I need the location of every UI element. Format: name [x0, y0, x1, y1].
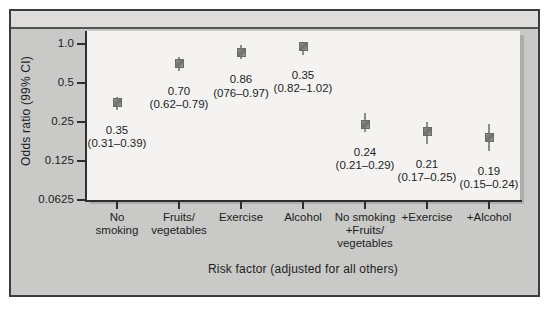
y-axis-tick-label: 0.25	[0, 115, 74, 129]
y-axis-tick-label-text: 0.0625	[0, 193, 74, 205]
y-axis-tick-label: 0.5	[0, 76, 74, 90]
y-axis-tick-label: 1.0	[0, 37, 74, 51]
point-marker	[113, 98, 122, 107]
data-point-confidence-interval: (0.82–1.02)	[257, 82, 349, 96]
y-axis-tick	[77, 82, 86, 84]
x-axis-tick	[302, 201, 304, 209]
y-axis-tick	[77, 160, 86, 162]
x-axis-tick	[178, 201, 180, 209]
point-marker	[175, 59, 184, 68]
data-point-label: 0.35(0.31–0.39)	[71, 124, 163, 151]
data-point-confidence-interval: (0.31–0.39)	[71, 137, 163, 151]
x-axis-title: Risk factor (adjusted for all others)	[86, 262, 520, 276]
panel-top-band	[11, 11, 538, 29]
point-marker	[299, 42, 308, 51]
data-point[interactable]	[231, 43, 251, 61]
x-axis-tick	[240, 201, 242, 209]
data-point-confidence-interval: (0.62–0.79)	[133, 98, 225, 112]
x-axis-category-label-line: vegetables	[127, 224, 231, 237]
y-axis-line	[85, 31, 87, 202]
x-axis-category-label-line: +Fruits/	[313, 224, 417, 237]
point-marker	[237, 48, 246, 57]
data-point-label: 0.19(0.15–0.24)	[443, 165, 535, 192]
data-point[interactable]	[355, 111, 375, 133]
y-axis-tick-label-text: 1.0	[0, 37, 74, 49]
x-axis-category-label-line: vegetables	[313, 237, 417, 250]
data-point[interactable]	[417, 120, 437, 146]
data-point-estimate: 0.19	[443, 165, 535, 179]
data-point[interactable]	[293, 40, 313, 56]
y-axis-tick	[77, 43, 86, 45]
data-point[interactable]	[479, 122, 499, 153]
point-marker	[485, 133, 494, 142]
point-marker	[423, 127, 432, 136]
y-axis-tick	[77, 121, 86, 123]
y-axis-tick-label-text: 0.125	[0, 154, 74, 166]
x-axis-category-label-line: +Alcohol	[437, 211, 541, 224]
x-axis-tick	[116, 201, 118, 209]
x-axis-tick	[364, 201, 366, 209]
data-point-label: 0.35(0.82–1.02)	[257, 69, 349, 96]
y-axis-tick	[77, 199, 86, 201]
point-marker	[361, 120, 370, 129]
data-point[interactable]	[169, 55, 189, 73]
y-axis-tick-label-text: 0.5	[0, 76, 74, 88]
y-axis-tick-label: 0.125	[0, 154, 74, 168]
x-axis-tick	[426, 201, 428, 209]
x-axis-category-label: +Alcohol	[437, 211, 541, 224]
data-point-estimate: 0.35	[71, 124, 163, 138]
y-axis-tick-label-text: 0.25	[0, 115, 74, 127]
y-axis-tick-label: 0.0625	[0, 193, 74, 207]
figure-container: Odds ratio (99% CI) 1.00.50.250.1250.062…	[0, 0, 551, 311]
data-point-confidence-interval: (0.15–0.24)	[443, 178, 535, 192]
x-axis-tick	[488, 201, 490, 209]
data-point[interactable]	[107, 95, 127, 112]
data-point-estimate: 0.35	[257, 69, 349, 83]
